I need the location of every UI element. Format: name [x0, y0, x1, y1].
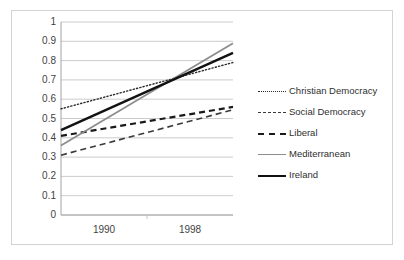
dashed-line-icon [258, 107, 286, 117]
legend-item: Social Democracy [258, 101, 390, 122]
chart-legend: Christian DemocracySocial DemocracyLiber… [258, 80, 390, 185]
legend-item: Christian Democracy [258, 80, 390, 101]
dotted-line-icon [258, 86, 286, 96]
legend-item-label: Mediterranean [289, 149, 350, 159]
legend-item: Mediterranean [258, 143, 390, 164]
legend-item-label: Ireland [289, 170, 318, 180]
x-tick-label: 1998 [179, 225, 201, 235]
legend-item-label: Christian Democracy [289, 86, 377, 96]
solid-gray-line-icon [258, 149, 286, 159]
x-tick-label: 1990 [93, 225, 115, 235]
legend-item-label: Social Democracy [289, 107, 366, 117]
legend-item-label: Liberal [289, 128, 318, 138]
dashed-bold-line-icon [258, 128, 286, 138]
solid-black-line-icon [258, 170, 286, 180]
legend-item: Ireland [258, 164, 390, 185]
legend-item: Liberal [258, 122, 390, 143]
